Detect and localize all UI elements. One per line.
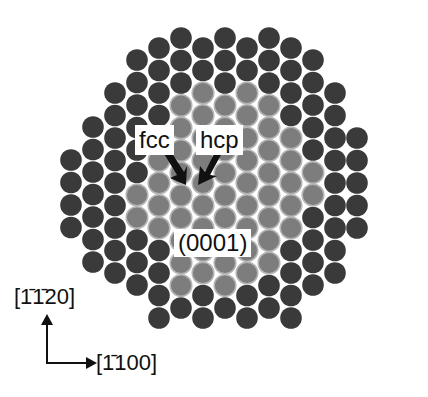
substrate-atom: [82, 251, 104, 273]
up-arrow-icon: [41, 314, 53, 326]
substrate-atom: [214, 72, 236, 94]
substrate-atom: [104, 217, 126, 239]
substrate-atom: [324, 105, 346, 127]
substrate-atom: [346, 172, 368, 194]
substrate-atom: [280, 37, 302, 59]
island-atom: [214, 207, 236, 229]
substrate-atom: [302, 252, 324, 274]
substrate-atom: [148, 105, 170, 127]
substrate-atom: [104, 195, 126, 217]
island-atom: [192, 82, 214, 104]
island-atom: [170, 207, 192, 229]
island-atom: [126, 184, 148, 206]
substrate-atom: [346, 127, 368, 149]
substrate-atom: [104, 172, 126, 194]
substrate-atom: [280, 105, 302, 127]
substrate-atom: [104, 262, 126, 284]
island-atom: [258, 207, 280, 229]
island-atom: [192, 195, 214, 217]
substrate-atom: [258, 27, 280, 49]
substrate-atom: [324, 127, 346, 149]
substrate-atom: [346, 195, 368, 217]
substrate-atom: [192, 37, 214, 59]
substrate-atom: [346, 150, 368, 172]
substrate-atom: [324, 150, 346, 172]
substrate-atom: [324, 217, 346, 239]
island-atom: [258, 140, 280, 162]
substrate-atom: [258, 50, 280, 72]
substrate-atom: [60, 194, 82, 216]
substrate-atom: [302, 72, 324, 94]
substrate-atom: [236, 37, 258, 59]
substrate-atom: [60, 217, 82, 239]
substrate-atom: [126, 94, 148, 116]
substrate-atom: [280, 262, 302, 284]
substrate-atom: [82, 229, 104, 251]
substrate-atom: [170, 50, 192, 72]
substrate-atom: [148, 60, 170, 82]
substrate-atom: [192, 307, 214, 329]
island-atom: [170, 275, 192, 297]
island-atom: [236, 262, 258, 284]
island-atom: [214, 95, 236, 117]
island-atom: [302, 162, 324, 184]
substrate-atom: [302, 229, 324, 251]
substrate-atom: [126, 72, 148, 94]
substrate-atom: [82, 139, 104, 161]
substrate-atom: [258, 297, 280, 319]
substrate-atom: [236, 60, 258, 82]
island-atom: [258, 252, 280, 274]
substrate-atom: [126, 162, 148, 184]
island-atom: [280, 195, 302, 217]
substrate-atom: [214, 27, 236, 49]
substrate-atom: [148, 307, 170, 329]
substrate-atom: [170, 297, 192, 319]
substrate-atom: [82, 206, 104, 228]
substrate-atom: [236, 285, 258, 307]
substrate-atom: [170, 27, 192, 49]
substrate-atom: [126, 274, 148, 296]
island-atom: [192, 262, 214, 284]
substrate-atom: [126, 49, 148, 71]
island-atom: [236, 172, 258, 194]
island-atom: [258, 185, 280, 207]
substrate-atom: [302, 49, 324, 71]
substrate-atom: [302, 207, 324, 229]
substrate-atom: [236, 307, 258, 329]
island-atom: [214, 162, 236, 184]
substrate-atom: [148, 37, 170, 59]
substrate-atom: [346, 217, 368, 239]
substrate-atom: [302, 117, 324, 139]
substrate-atom: [126, 229, 148, 251]
substrate-atom: [280, 285, 302, 307]
island-atom: [280, 172, 302, 194]
substrate-atom: [302, 139, 324, 161]
substrate-atom: [148, 262, 170, 284]
substrate-atom: [258, 275, 280, 297]
horizontal-axis-label: [1̄100]: [96, 350, 157, 376]
island-atom: [236, 105, 258, 127]
substrate-atom: [126, 252, 148, 274]
substrate-atom: [192, 60, 214, 82]
substrate-atom: [192, 285, 214, 307]
island-atom: [258, 95, 280, 117]
substrate-atom: [148, 240, 170, 262]
island-atom: [170, 185, 192, 207]
island-atom: [236, 82, 258, 104]
substrate-atom: [324, 82, 346, 104]
island-atom: [280, 217, 302, 239]
substrate-atom: [104, 127, 126, 149]
island-atom: [280, 127, 302, 149]
substrate-atom: [60, 172, 82, 194]
substrate-atom: [280, 82, 302, 104]
substrate-atom: [104, 240, 126, 262]
substrate-atom: [280, 60, 302, 82]
substrate-atom: [60, 149, 82, 171]
island-atom: [148, 195, 170, 217]
vertical-axis-line: [46, 322, 48, 364]
island-atom: [126, 207, 148, 229]
substrate-atom: [148, 285, 170, 307]
substrate-atom: [280, 240, 302, 262]
island-atom: [214, 275, 236, 297]
substrate-atom: [280, 307, 302, 329]
